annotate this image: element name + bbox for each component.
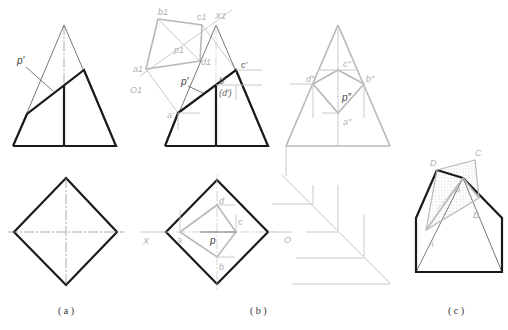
svg-text:c″: c″ — [343, 59, 352, 69]
caption-b: ( b ) — [250, 305, 267, 317]
svg-text:b1: b1 — [158, 7, 168, 17]
svg-text:O1: O1 — [130, 85, 142, 95]
svg-text:c1: c1 — [197, 12, 207, 22]
svg-text:B: B — [473, 210, 479, 220]
svg-text:p1: p1 — [173, 45, 184, 55]
caption-a: ( a ) — [58, 305, 74, 317]
svg-text:p′: p′ — [180, 76, 190, 87]
svg-text:d: d — [219, 196, 225, 206]
svg-text:D: D — [430, 158, 437, 168]
svg-text:d1: d1 — [201, 57, 211, 67]
svg-text:c: c — [238, 217, 243, 227]
panel-c: D C P B A ( c ) — [416, 148, 502, 317]
svg-text:C: C — [475, 148, 482, 158]
svg-text:p″: p″ — [341, 92, 352, 103]
svg-text:b: b — [219, 262, 224, 272]
svg-text:c′: c′ — [241, 60, 248, 70]
svg-text:X1: X1 — [214, 11, 226, 21]
panel-b-front-view: c′ b′ (d′) p′ a′ — [165, 25, 268, 146]
svg-text:P: P — [454, 186, 460, 196]
panel-b-top-view: d c a b p X O — [140, 175, 292, 290]
projection-diagram: p′ ( a ) b1 c1 X1 p1 d1 a1 O1 — [0, 0, 508, 330]
svg-text:p: p — [209, 235, 216, 246]
svg-text:X: X — [142, 236, 150, 246]
svg-text:b′: b′ — [219, 76, 226, 86]
figure-canvas: p′ ( a ) b1 c1 X1 p1 d1 a1 O1 — [0, 0, 508, 330]
label-p-prime: p′ — [16, 55, 26, 66]
svg-text:(d′): (d′) — [219, 88, 232, 98]
panel-b-side-view: d″ c″ b″ p″ a″ — [286, 25, 390, 146]
leader-line — [26, 67, 53, 91]
panel-b-miter-construction — [272, 146, 390, 284]
panel-a-front-view: p′ — [13, 25, 116, 146]
panel-a: p′ ( a ) — [8, 25, 124, 317]
svg-text:a: a — [177, 235, 182, 245]
svg-text:a1: a1 — [133, 64, 143, 74]
panel-b: b1 c1 X1 p1 d1 a1 O1 c′ b′ (d′) p′ — [130, 7, 390, 317]
svg-text:a″: a″ — [343, 117, 352, 127]
svg-text:A: A — [427, 239, 434, 249]
svg-text:O: O — [284, 235, 291, 245]
svg-text:a′: a′ — [167, 110, 174, 120]
panel-a-top-view — [8, 178, 124, 285]
caption-c: ( c ) — [448, 305, 464, 317]
svg-text:d″: d″ — [306, 74, 315, 84]
svg-text:b″: b″ — [366, 74, 375, 84]
